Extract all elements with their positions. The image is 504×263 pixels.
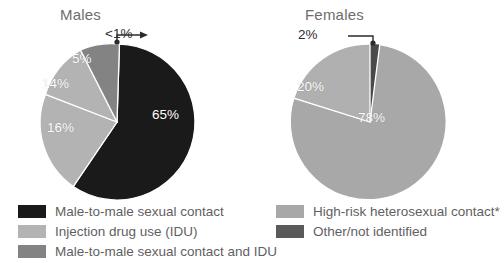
chart-title-females: Females <box>305 6 364 23</box>
legend-column-right: High-risk heterosexual contact* Other/no… <box>276 202 500 242</box>
legend-label-msm: Male-to-male sexual contact <box>55 205 224 219</box>
legend-item-heterosexual: High-risk heterosexual contact* <box>276 202 500 221</box>
legend-swatch-other <box>276 225 304 238</box>
legend-swatch-msm <box>18 205 46 218</box>
chart-title-males: Males <box>60 6 101 23</box>
legend-swatch-heterosexual <box>276 205 304 218</box>
legend-label-other: Other/not identified <box>313 225 427 239</box>
slice-males-idu <box>40 94 117 186</box>
legend-item-idu: Injection drug use (IDU) <box>18 222 277 241</box>
callout-line-females-other <box>348 36 373 44</box>
legend-item-msm-idu: Male-to-male sexual contact and IDU <box>18 242 277 261</box>
slice-label-females-20: 20% <box>297 79 324 94</box>
slice-label-males-5: 5% <box>72 51 92 66</box>
legend: Male-to-male sexual contact Injection dr… <box>0 200 504 263</box>
callout-dot-females-other <box>370 40 375 45</box>
slice-label-males-65: 65% <box>152 107 179 122</box>
slice-label-females-78: 78% <box>358 110 385 125</box>
legend-label-idu: Injection drug use (IDU) <box>55 225 198 239</box>
slice-label-males-14: 14% <box>42 76 69 91</box>
legend-swatch-idu <box>18 225 46 238</box>
legend-label-heterosexual: High-risk heterosexual contact* <box>313 205 500 219</box>
legend-column-left: Male-to-male sexual contact Injection dr… <box>18 202 277 262</box>
legend-swatch-msm-idu <box>18 245 46 258</box>
callout-arrow-males-other <box>140 32 148 39</box>
legend-item-other: Other/not identified <box>276 222 500 241</box>
callout-label-males-lt1: <1% <box>105 26 132 41</box>
callout-label-females-2: 2% <box>298 27 318 42</box>
figure-root: Males Females <box>0 0 504 263</box>
legend-item-msm: Male-to-male sexual contact <box>18 202 277 221</box>
slice-males-msm <box>73 44 195 200</box>
slice-label-males-16: 16% <box>47 120 74 135</box>
slice-males-other <box>117 44 119 122</box>
legend-label-msm-idu: Male-to-male sexual contact and IDU <box>55 245 277 259</box>
